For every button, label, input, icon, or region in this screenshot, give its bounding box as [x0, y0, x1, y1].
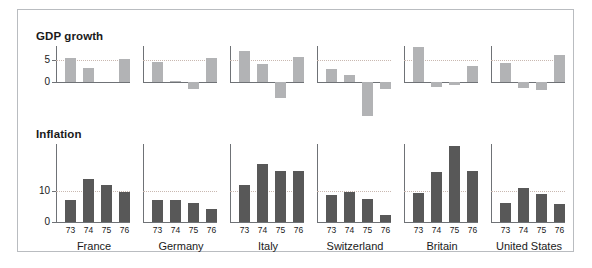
y-axis-line [230, 144, 231, 222]
bar [326, 195, 337, 222]
bar [554, 55, 565, 82]
bar [239, 185, 250, 222]
bar [257, 164, 268, 222]
x-tick-label: 75 [98, 225, 115, 235]
bar [380, 82, 391, 89]
x-tick-label: 75 [446, 225, 463, 235]
bar [188, 82, 199, 89]
y-axis-line [143, 144, 144, 222]
y-axis-line [230, 46, 231, 82]
bar [449, 82, 460, 85]
y-axis-line [317, 46, 318, 82]
y-axis-line [56, 46, 57, 82]
x-tick-label: 76 [116, 225, 133, 235]
zero-baseline [230, 82, 304, 83]
x-tick-label: 76 [464, 225, 481, 235]
x-tick-label: 73 [323, 225, 340, 235]
bar [206, 209, 217, 222]
x-tick-label: 74 [254, 225, 271, 235]
bar [500, 63, 511, 82]
bar [362, 199, 373, 222]
bar [119, 192, 130, 222]
bar [413, 47, 424, 82]
zero-baseline [317, 222, 391, 223]
x-tick-label: 73 [149, 225, 166, 235]
inflation-chart-row: 73747576France10073747576Germany73747576… [18, 144, 575, 240]
country-label: United States [477, 240, 581, 252]
gdp-chart-row: 50 [18, 46, 575, 118]
chart-cell-united-states [491, 46, 567, 118]
x-tick-label: 76 [377, 225, 394, 235]
bar [257, 64, 268, 82]
bar [467, 171, 478, 222]
x-tick-label: 75 [533, 225, 550, 235]
chart-cell-italy: 73747576Italy [230, 144, 306, 240]
gdp-panel-title: GDP growth [36, 30, 103, 42]
bar [449, 146, 460, 222]
x-tick-label: 73 [497, 225, 514, 235]
chart-cell-switzerland: 73747576Switzerland [317, 144, 393, 240]
bar [344, 192, 355, 222]
y-tick-mark [52, 60, 56, 61]
x-tick-label: 74 [515, 225, 532, 235]
bar [152, 200, 163, 222]
x-tick-label: 73 [62, 225, 79, 235]
x-tick-label: 76 [290, 225, 307, 235]
y-tick-label: 10 [30, 185, 50, 196]
bar [536, 194, 547, 222]
zero-baseline [143, 222, 217, 223]
bar [536, 82, 547, 90]
chart-cell-britain: 73747576Britain [404, 144, 480, 240]
x-tick-label: 75 [185, 225, 202, 235]
zero-baseline [56, 82, 130, 83]
chart-cell-germany [143, 46, 219, 118]
bar [275, 171, 286, 222]
gridline [317, 60, 391, 61]
bar [518, 82, 529, 88]
gridline [143, 191, 217, 192]
bar [380, 215, 391, 222]
bar [83, 68, 94, 82]
y-axis-line [491, 46, 492, 82]
y-tick-mark [52, 191, 56, 192]
bar [83, 179, 94, 222]
x-tick-label: 73 [410, 225, 427, 235]
bar [65, 200, 76, 222]
y-axis-line [491, 144, 492, 222]
bar [362, 82, 373, 116]
x-tick-label: 74 [167, 225, 184, 235]
bar [413, 193, 424, 222]
y-axis-line [317, 144, 318, 222]
bar [170, 81, 181, 82]
bar [275, 82, 286, 98]
zero-baseline [404, 222, 478, 223]
chart-cell-italy [230, 46, 306, 118]
bar [467, 66, 478, 82]
bar [65, 58, 76, 82]
x-tick-label: 76 [203, 225, 220, 235]
chart-cell-france: 50 [56, 46, 132, 118]
chart-cell-united-states: 73747576United States [491, 144, 567, 240]
y-axis-line [404, 144, 405, 222]
bar [119, 59, 130, 82]
zero-baseline [491, 222, 565, 223]
y-tick-label: 0 [30, 76, 50, 87]
x-tick-label: 74 [80, 225, 97, 235]
y-tick-label: 5 [30, 54, 50, 65]
x-tick-label: 74 [341, 225, 358, 235]
chart-cell-france: 73747576France100 [56, 144, 132, 240]
zero-baseline [230, 222, 304, 223]
bar [293, 171, 304, 222]
bar [152, 62, 163, 82]
y-tick-mark [52, 222, 56, 223]
chart-cell-britain [404, 46, 480, 118]
bar [554, 204, 565, 222]
chart-figure: GDP growth Inflation 50 73747576France10… [17, 9, 574, 252]
y-axis-line [143, 46, 144, 82]
bar [431, 82, 442, 87]
bar [188, 203, 199, 222]
bar [344, 75, 355, 82]
bar [239, 51, 250, 82]
bar [518, 188, 529, 222]
bar [170, 200, 181, 222]
